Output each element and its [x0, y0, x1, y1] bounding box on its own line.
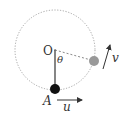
label-u: u [63, 100, 71, 113]
velocity-v-arrow [103, 45, 110, 69]
displaced-ball [89, 56, 99, 66]
label-A: A [42, 94, 52, 108]
center-point [54, 49, 56, 51]
ball-at-A [50, 84, 60, 94]
label-v: v [112, 51, 119, 65]
vertical-circle-diagram: O θ A v u [0, 0, 121, 113]
label-O: O [43, 44, 53, 58]
label-theta: θ [57, 54, 63, 65]
